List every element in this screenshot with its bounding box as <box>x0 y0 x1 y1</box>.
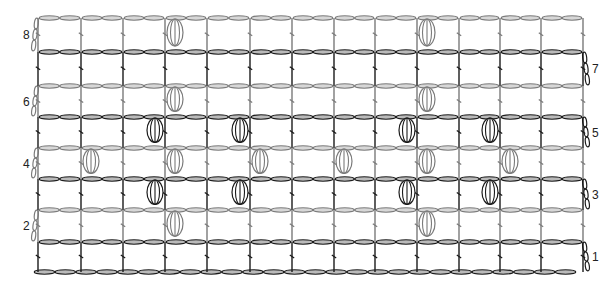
chain-segment <box>39 177 80 181</box>
double-crochet-icon <box>121 117 125 148</box>
chain-segment <box>418 50 458 54</box>
bobble-stitch-icon <box>252 149 268 173</box>
bobble-stitch-icon <box>419 149 435 173</box>
chain-segment <box>418 115 458 119</box>
bobble-stitch-icon <box>482 118 498 142</box>
double-crochet-icon <box>248 86 252 117</box>
double-crochet-icon <box>36 179 40 210</box>
double-crochet-icon <box>457 86 461 117</box>
chain-segment <box>293 208 333 212</box>
chain-segment <box>335 84 374 88</box>
chain-segment <box>82 208 122 212</box>
double-crochet-icon <box>415 52 419 86</box>
double-crochet-icon <box>332 179 336 210</box>
double-crochet-icon <box>498 86 502 117</box>
double-crochet-icon <box>121 210 125 242</box>
double-crochet-icon <box>205 179 209 210</box>
chain-segment <box>418 177 458 181</box>
double-crochet-icon <box>290 148 294 179</box>
chain-segment <box>208 84 249 88</box>
double-crochet-icon <box>373 117 377 148</box>
double-crochet-icon <box>581 86 585 117</box>
double-crochet-icon <box>79 86 83 117</box>
chain-segment <box>335 16 374 20</box>
bobble-stitch-icon <box>147 180 163 204</box>
double-crochet-icon <box>332 52 336 86</box>
chain-segment <box>124 50 164 54</box>
chain-segment <box>39 16 80 20</box>
double-crochet-icon <box>457 148 461 179</box>
bobble-stitch-icon <box>232 118 248 142</box>
chain-segment <box>542 177 582 181</box>
bobble-stitch-icon <box>419 87 435 111</box>
double-crochet-icon <box>205 52 209 86</box>
chain-segment <box>208 208 249 212</box>
bobble-stitch-icon <box>147 118 163 142</box>
chain-segment <box>335 115 374 119</box>
chain-segment <box>542 16 582 20</box>
chain-segment <box>293 84 333 88</box>
row-label-1: 1 <box>592 250 599 264</box>
chain-segment <box>166 50 206 54</box>
chain-segment <box>501 240 540 244</box>
chain-segment <box>166 177 206 181</box>
double-crochet-icon <box>539 52 543 86</box>
double-crochet-icon <box>121 242 125 272</box>
double-crochet-icon <box>121 18 125 52</box>
bobble-stitch-icon <box>167 87 183 111</box>
chain-segment <box>82 50 122 54</box>
double-crochet-icon <box>539 242 543 272</box>
double-crochet-icon <box>205 86 209 117</box>
double-crochet-icon <box>373 210 377 242</box>
row-label-3: 3 <box>592 188 599 202</box>
double-crochet-icon <box>121 148 125 179</box>
chain-segment <box>376 16 416 20</box>
chain-segment <box>542 240 582 244</box>
double-crochet-icon <box>290 242 294 272</box>
chart-row-5 <box>36 115 590 148</box>
double-crochet-icon <box>581 18 585 52</box>
chain-segment <box>460 146 499 150</box>
chain-segment <box>376 146 416 150</box>
chain-segment <box>293 115 333 119</box>
chain-segment <box>251 240 291 244</box>
double-crochet-icon <box>205 148 209 179</box>
double-crochet-icon <box>332 18 336 52</box>
double-crochet-icon <box>290 86 294 117</box>
double-crochet-icon <box>457 117 461 148</box>
chain-segment <box>82 115 122 119</box>
chart-rows <box>31 16 590 272</box>
chart-row-1 <box>36 240 590 272</box>
double-crochet-icon <box>332 210 336 242</box>
row-label-6: 6 <box>23 95 30 109</box>
double-crochet-icon <box>121 179 125 210</box>
chain-segment <box>376 240 416 244</box>
double-crochet-icon <box>248 18 252 52</box>
double-crochet-icon <box>539 148 543 179</box>
foundation-chain <box>34 270 576 274</box>
chain-segment <box>293 146 333 150</box>
double-crochet-icon <box>79 52 83 86</box>
double-crochet-icon <box>373 52 377 86</box>
double-crochet-icon <box>457 52 461 86</box>
double-crochet-icon <box>163 242 167 272</box>
bobble-stitch-icon <box>482 180 498 204</box>
double-crochet-icon <box>539 86 543 117</box>
chain-segment <box>251 16 291 20</box>
double-crochet-icon <box>498 242 502 272</box>
chain-segment <box>82 240 122 244</box>
chain-segment <box>82 84 122 88</box>
chain-segment <box>124 208 164 212</box>
double-crochet-icon <box>581 148 585 179</box>
chain-segment <box>39 208 80 212</box>
double-crochet-icon <box>248 210 252 242</box>
double-crochet-icon <box>457 179 461 210</box>
chain-segment <box>418 240 458 244</box>
double-crochet-icon <box>290 52 294 86</box>
double-crochet-icon <box>121 86 125 117</box>
double-crochet-icon <box>79 18 83 52</box>
bobble-stitch-icon <box>502 149 518 173</box>
bobble-stitch-icon <box>167 149 183 173</box>
double-crochet-icon <box>332 117 336 148</box>
double-crochet-icon <box>332 242 336 272</box>
